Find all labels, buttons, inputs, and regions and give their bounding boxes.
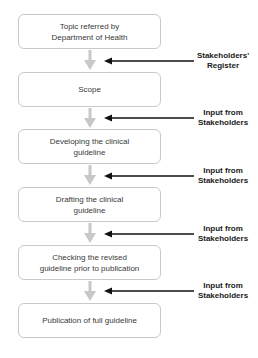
input-label-stakeholders: Input from Stakeholders [194,166,252,186]
left-arrow-icon [104,172,196,180]
input-label-line1: Stakeholders' [194,51,252,61]
input-label-line2: Register [194,61,252,71]
input-label-stakeholders: Input from Stakeholders [194,108,252,128]
input-label-stakeholders: Input from Stakeholders [194,281,252,301]
step-label-line2: guideline [56,205,124,216]
step-box-drafting: Drafting the clinical guideline [18,187,161,222]
input-label-line2: Stakeholders [194,118,252,128]
input-label-line2: Stakeholders [194,176,252,186]
step-label-line1: Publication of full guideline [42,315,137,326]
step-label-line1: Developing the clinical [50,136,130,147]
down-arrow-icon [84,223,96,243]
input-label-line2: Stakeholders [194,234,252,244]
step-box-publication: Publication of full guideline [18,303,161,338]
left-arrow-icon [104,287,196,295]
left-arrow-icon [104,57,196,65]
input-label-line1: Input from [194,281,252,291]
step-label-line1: Checking the revised [40,252,140,263]
step-label-line2: guideline prior to publication [40,263,140,274]
step-label-line2: Department of Health [51,32,127,43]
step-label-line1: Drafting the clinical [56,194,124,205]
step-label-line1: Topic referred by [51,21,127,32]
step-box-developing: Developing the clinical guideline [18,129,161,164]
input-label-line1: Input from [194,166,252,176]
step-label-line2: guideline [50,147,130,158]
down-arrow-icon [84,50,96,70]
input-label-stakeholders: Input from Stakeholders [194,224,252,244]
step-box-scope: Scope [18,72,161,107]
down-arrow-icon [84,281,96,301]
step-box-topic: Topic referred by Department of Health [18,14,161,49]
input-label-line1: Input from [194,108,252,118]
input-label-stakeholders-register: Stakeholders' Register [194,51,252,71]
input-label-line1: Input from [194,224,252,234]
input-label-line2: Stakeholders [194,291,252,301]
left-arrow-icon [104,230,196,238]
left-arrow-icon [104,114,196,122]
step-box-checking: Checking the revised guideline prior to … [18,245,161,280]
step-label-line1: Scope [78,84,101,95]
down-arrow-icon [84,165,96,185]
down-arrow-icon [84,108,96,128]
flowchart: Topic referred by Department of Health S… [0,0,258,358]
